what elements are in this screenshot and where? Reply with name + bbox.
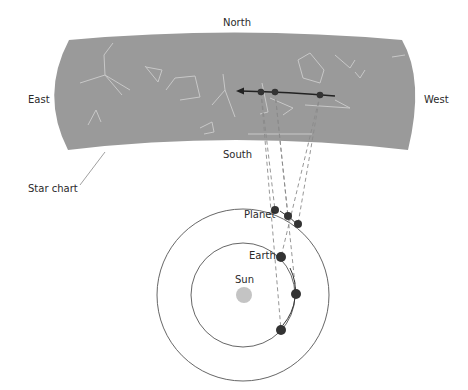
label-earth: Earth: [249, 251, 276, 261]
earth-positions: [276, 252, 301, 335]
retrograde-motion-diagram: [0, 0, 468, 390]
label-star-chart: Star chart: [28, 184, 78, 194]
label-sun: Sun: [235, 275, 254, 285]
label-south: South: [223, 150, 252, 160]
star-chart-band: [54, 33, 415, 151]
planet-positions: [271, 206, 302, 228]
label-planet: Planet: [244, 210, 275, 220]
label-east: East: [28, 95, 50, 105]
sun: [236, 287, 252, 303]
label-west: West: [424, 95, 449, 105]
star-chart-pointer: [80, 152, 105, 185]
label-north: North: [223, 18, 251, 28]
